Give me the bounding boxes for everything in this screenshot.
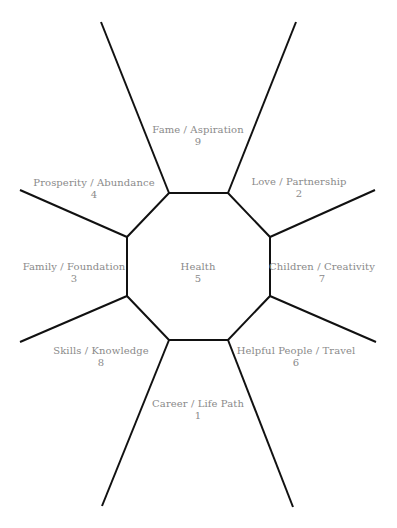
zone-label: Children / Creativity — [269, 261, 375, 272]
zone-love: Love / Partnership 2 — [251, 176, 346, 200]
zone-helpful: Helpful People / Travel 6 — [237, 345, 356, 369]
zone-career: Career / Life Path 1 — [152, 398, 244, 422]
zone-number: 4 — [33, 189, 154, 201]
zone-number: 1 — [152, 410, 244, 422]
zone-number: 6 — [237, 357, 356, 369]
spoke-left-lower — [20, 296, 127, 342]
zone-label: Love / Partnership — [251, 176, 346, 187]
zone-number: 5 — [181, 273, 216, 285]
spoke-top-left — [101, 22, 169, 193]
zone-number: 2 — [251, 188, 346, 200]
zone-label: Fame / Aspiration — [152, 124, 243, 135]
zone-prosperity: Prosperity / Abundance 4 — [33, 177, 154, 201]
zone-fame: Fame / Aspiration 9 — [152, 124, 243, 148]
zone-family: Family / Foundation 3 — [23, 261, 126, 285]
zone-number: 3 — [23, 273, 126, 285]
zone-health: Health 5 — [181, 261, 216, 285]
zone-label: Helpful People / Travel — [237, 345, 356, 356]
zone-label: Skills / Knowledge — [53, 345, 149, 356]
zone-label: Health — [181, 261, 216, 272]
spoke-right-lower — [270, 296, 376, 342]
zone-label: Career / Life Path — [152, 398, 244, 409]
zone-children: Children / Creativity 7 — [269, 261, 375, 285]
spoke-top-right — [228, 22, 296, 193]
zone-number: 9 — [152, 136, 243, 148]
zone-skills: Skills / Knowledge 8 — [53, 345, 149, 369]
zone-label: Prosperity / Abundance — [33, 177, 154, 188]
zone-number: 7 — [269, 273, 375, 285]
zone-number: 8 — [53, 357, 149, 369]
zone-label: Family / Foundation — [23, 261, 126, 272]
